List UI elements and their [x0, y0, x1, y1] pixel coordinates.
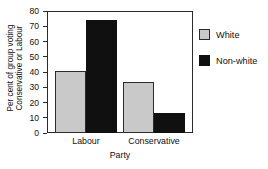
legend-label-non-white: Non-white	[216, 56, 257, 66]
bar-chart-figure: Per cent of group voting Conservative or…	[0, 0, 268, 169]
y-axis-tick-mark	[43, 26, 47, 27]
bar-labour-white	[55, 71, 86, 133]
y-axis-tick-mark	[43, 102, 47, 103]
bar-labour-non-white	[86, 20, 117, 133]
y-axis-tick-mark	[43, 41, 47, 42]
y-axis-tick-mark	[43, 87, 47, 88]
y-axis-tick: 20	[0, 98, 47, 108]
y-axis-tick-mark	[43, 56, 47, 57]
y-axis-tick: 50	[0, 52, 47, 62]
y-axis-tick-mark	[43, 11, 47, 12]
x-axis-label-conservative: Conservative	[104, 136, 204, 146]
y-axis-tick: 30	[0, 82, 47, 92]
y-axis-tick-label: 20	[11, 98, 39, 108]
y-axis-tick-label: 10	[11, 113, 39, 123]
y-axis-tick: 80	[0, 6, 47, 16]
y-axis-tick: 60	[0, 37, 47, 47]
y-axis-tick-label: 60	[11, 37, 39, 47]
y-axis-tick: 70	[0, 21, 47, 31]
y-axis-tick-label: 0	[11, 128, 39, 138]
y-axis-tick-label: 80	[11, 6, 39, 16]
x-axis-title: Party	[47, 150, 193, 160]
y-axis-tick-mark	[43, 72, 47, 73]
y-axis-tick-label: 70	[11, 21, 39, 31]
legend-item-white: White	[199, 29, 257, 40]
bar-conservative-white	[123, 82, 154, 133]
y-axis-tick-label: 40	[11, 67, 39, 77]
bar-conservative-non-white	[154, 113, 185, 133]
y-axis-tick-mark	[43, 117, 47, 118]
y-axis-tick-label: 50	[11, 52, 39, 62]
y-axis-tick: 40	[0, 67, 47, 77]
y-axis-tick-label: 30	[11, 82, 39, 92]
legend-swatch-non-white	[199, 55, 210, 66]
legend-swatch-white	[199, 29, 210, 40]
legend: White Non-white	[199, 29, 257, 66]
y-axis-tick: 10	[0, 113, 47, 123]
legend-item-non-white: Non-white	[199, 55, 257, 66]
y-axis-tick-mark	[43, 133, 47, 134]
legend-label-white: White	[216, 30, 240, 40]
